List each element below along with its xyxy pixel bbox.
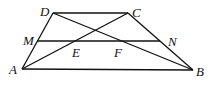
label-e: E: [71, 45, 80, 60]
geometry-diagram: A B C D M N E F: [0, 0, 213, 85]
label-f: F: [113, 45, 123, 60]
segment-ab: [22, 69, 193, 70]
trapezoid-figure: A B C D M N E F: [0, 0, 213, 85]
label-a: A: [8, 62, 17, 77]
label-b: B: [196, 64, 204, 79]
label-c: C: [132, 5, 141, 20]
label-n: N: [167, 34, 178, 49]
label-d: D: [39, 4, 50, 19]
label-m: M: [22, 33, 35, 48]
